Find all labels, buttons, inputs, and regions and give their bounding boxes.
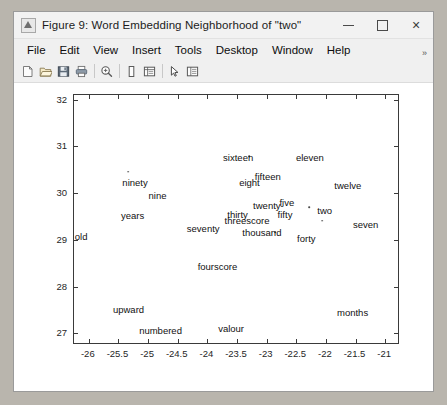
word-label[interactable]: two [317, 205, 332, 216]
y-tick-right [394, 333, 398, 334]
title-bar: Figure 9: Word Embedding Neighborhood of… [14, 12, 433, 39]
x-tick-label: -23 [259, 348, 273, 359]
x-tick [356, 339, 357, 343]
maximize-button[interactable] [365, 12, 399, 38]
new-figure-icon[interactable] [19, 63, 36, 80]
x-tick-top [178, 95, 179, 99]
print-figure-icon[interactable] [73, 63, 90, 80]
word-label[interactable]: fifteen [255, 171, 281, 182]
figure-toolbar [14, 60, 433, 83]
word-label[interactable]: years [121, 209, 144, 220]
maximize-icon [377, 20, 388, 31]
y-tick [74, 333, 78, 334]
word-label[interactable]: thousand [242, 226, 281, 237]
word-label[interactable]: forty [297, 232, 315, 243]
data-point-marker [127, 171, 129, 173]
edit-plot-icon[interactable] [166, 63, 183, 80]
word-label[interactable]: valour [218, 323, 244, 334]
x-tick-label: -22 [318, 348, 332, 359]
close-button[interactable]: × [399, 12, 433, 38]
menu-item-insert[interactable]: Insert [125, 42, 168, 58]
toolbar-separator [94, 64, 95, 78]
word-label[interactable]: months [337, 307, 368, 318]
word-label[interactable]: twelve [334, 179, 361, 190]
word-label[interactable]: nine [149, 189, 167, 200]
x-tick-label: -23.5 [225, 348, 247, 359]
word-label[interactable]: five [279, 197, 294, 208]
y-tick-label: 31 [47, 140, 67, 151]
x-tick-label: -26 [81, 348, 95, 359]
x-tick-top [385, 95, 386, 99]
word-label[interactable]: numbered [139, 325, 182, 336]
menu-overflow-icon[interactable]: » [422, 48, 427, 58]
menu-item-window[interactable]: Window [265, 42, 320, 58]
y-tick-label: 32 [47, 93, 67, 104]
x-tick [148, 339, 149, 343]
save-figure-icon[interactable] [55, 63, 72, 80]
menu-item-tools[interactable]: Tools [168, 42, 209, 58]
x-tick [89, 339, 90, 343]
x-tick-top [89, 95, 90, 99]
word-label[interactable]: fourscore [198, 261, 238, 272]
show-plot-tools-icon[interactable] [184, 63, 201, 80]
x-tick [385, 339, 386, 343]
menu-item-edit[interactable]: Edit [53, 42, 87, 58]
zoom-in-glyph [100, 65, 113, 78]
y-tick-right [394, 193, 398, 194]
word-label[interactable]: seven [353, 218, 378, 229]
minimize-icon [343, 25, 354, 26]
word-label[interactable]: upward [113, 303, 144, 314]
x-tick-top [207, 95, 208, 99]
window-controls: × [331, 12, 433, 38]
minimize-button[interactable] [331, 12, 365, 38]
menu-item-desktop[interactable]: Desktop [209, 42, 265, 58]
x-tick-top [326, 95, 327, 99]
y-tick-label: 27 [47, 327, 67, 338]
figure-canvas[interactable]: sixteenelevenninetyeightfifteentwelvenin… [14, 83, 433, 391]
x-tick-top [356, 95, 357, 99]
word-label[interactable]: ninety [122, 176, 147, 187]
show-plot-tools-glyph [186, 65, 199, 78]
figure-window: Figure 9: Word Embedding Neighborhood of… [13, 11, 434, 392]
zoom-in-icon[interactable] [98, 63, 115, 80]
menu-item-view[interactable]: View [86, 42, 125, 58]
window-title: Figure 9: Word Embedding Neighborhood of… [42, 19, 301, 31]
x-tick-top [296, 95, 297, 99]
word-label[interactable]: seventy [187, 223, 220, 234]
insert-legend-icon[interactable] [141, 63, 158, 80]
new-figure-glyph [21, 65, 34, 78]
y-tick [74, 100, 78, 101]
x-tick [237, 339, 238, 343]
x-tick [267, 339, 268, 343]
y-tick-right [394, 100, 398, 101]
x-tick-label: -24.5 [166, 348, 188, 359]
insert-colorbar-icon[interactable] [123, 63, 140, 80]
x-tick-label: -24 [199, 348, 213, 359]
x-tick-label: -21.5 [344, 348, 366, 359]
insert-colorbar-glyph [125, 65, 138, 78]
x-tick [178, 339, 179, 343]
insert-legend-glyph [143, 65, 156, 78]
x-tick-label: -25.5 [107, 348, 129, 359]
word-label[interactable]: sixteen [223, 151, 253, 162]
save-figure-glyph [57, 65, 70, 78]
toolbar-separator [119, 64, 120, 78]
y-tick [74, 193, 78, 194]
x-tick [326, 339, 327, 343]
y-tick-label: 28 [47, 280, 67, 291]
axes-box: sixteenelevenninetyeightfifteentwelvenin… [73, 94, 399, 344]
word-label[interactable]: fifty [278, 209, 293, 220]
menu-item-help[interactable]: Help [320, 42, 358, 58]
data-point-marker [309, 206, 311, 208]
close-icon: × [412, 18, 420, 32]
word-label[interactable]: old [75, 230, 88, 241]
x-tick-label: -22.5 [284, 348, 306, 359]
word-label[interactable]: threescore [225, 215, 270, 226]
open-file-icon[interactable] [37, 63, 54, 80]
x-tick-top [148, 95, 149, 99]
menu-item-file[interactable]: File [20, 42, 53, 58]
print-figure-glyph [75, 65, 88, 78]
word-label[interactable]: eleven [296, 152, 324, 163]
y-tick-right [394, 240, 398, 241]
x-tick-top [267, 95, 268, 99]
